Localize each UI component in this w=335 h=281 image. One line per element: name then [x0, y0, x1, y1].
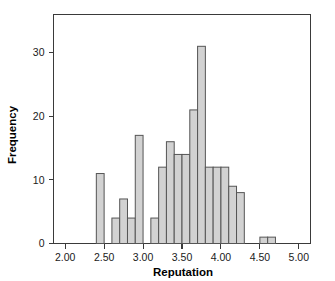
- y-tick-label: 10: [33, 174, 45, 186]
- histogram-bar: [159, 167, 167, 243]
- y-tick-label: 0: [39, 237, 45, 249]
- x-tick-label: 3.00: [133, 251, 154, 263]
- histogram-bar: [205, 167, 213, 243]
- histogram-plot: 2.002.503.003.504.004.505.00 0102030 Rep…: [0, 0, 335, 281]
- histogram-bar: [268, 237, 276, 243]
- x-tick-label: 2.00: [55, 251, 76, 263]
- histogram-bar: [96, 174, 104, 244]
- histogram-bar: [260, 237, 268, 243]
- y-axis-title: Frequency: [6, 105, 18, 164]
- y-tick-label: 30: [33, 46, 45, 58]
- x-tick-label: 5.00: [289, 251, 310, 263]
- histogram-figure: 2.002.503.003.504.004.505.00 0102030 Rep…: [0, 0, 335, 281]
- histogram-bar: [135, 135, 143, 243]
- histogram-bar: [120, 199, 128, 244]
- histogram-bar: [166, 142, 174, 244]
- histogram-bar: [190, 110, 198, 244]
- histogram-bar: [198, 46, 206, 243]
- y-tick-label: 20: [33, 110, 45, 122]
- x-tick-label: 2.50: [94, 251, 115, 263]
- histogram-bar: [127, 218, 135, 243]
- x-axis-title: Reputation: [153, 266, 213, 278]
- x-tick-label: 3.50: [172, 251, 193, 263]
- histogram-bar: [151, 218, 159, 243]
- histogram-bar: [213, 167, 221, 243]
- histogram-bar: [182, 154, 190, 243]
- histogram-bar: [174, 154, 182, 243]
- histogram-bar: [221, 167, 229, 243]
- histogram-bar: [112, 218, 120, 243]
- histogram-bar: [237, 193, 245, 244]
- x-tick-label: 4.50: [250, 251, 271, 263]
- x-tick-label: 4.00: [211, 251, 232, 263]
- histogram-bar: [229, 186, 237, 243]
